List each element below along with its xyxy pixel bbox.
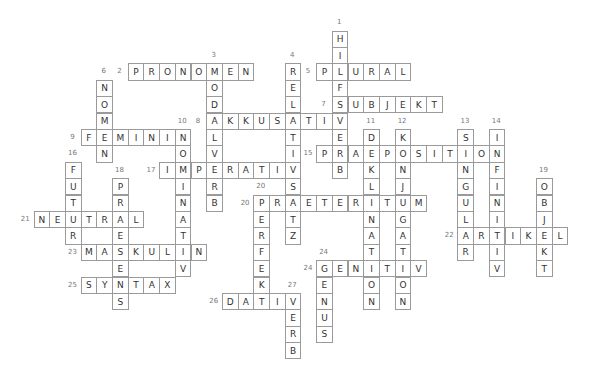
crossword-cell[interactable]: E: [285, 80, 302, 97]
crossword-cell[interactable]: K: [520, 227, 537, 244]
crossword-cell[interactable]: I: [489, 244, 506, 261]
crossword-cell[interactable]: V: [489, 260, 506, 277]
crossword-cell[interactable]: R: [112, 195, 129, 212]
crossword-cell[interactable]: X: [159, 277, 176, 294]
crossword-cell[interactable]: T: [316, 195, 333, 212]
crossword-cell[interactable]: I: [505, 227, 522, 244]
crossword-cell[interactable]: J: [536, 211, 553, 228]
crossword-cell[interactable]: N: [34, 211, 51, 228]
crossword-cell[interactable]: G: [316, 260, 333, 277]
crossword-cell[interactable]: N: [238, 63, 255, 80]
crossword-cell[interactable]: O: [191, 63, 208, 80]
crossword-cell[interactable]: I: [159, 162, 176, 179]
crossword-cell[interactable]: V: [285, 162, 302, 179]
crossword-cell[interactable]: K: [536, 244, 553, 261]
crossword-cell[interactable]: E: [300, 195, 317, 212]
crossword-cell[interactable]: P: [191, 162, 208, 179]
crossword-cell[interactable]: N: [112, 277, 129, 294]
crossword-cell[interactable]: U: [395, 195, 412, 212]
crossword-cell[interactable]: A: [457, 227, 474, 244]
crossword-cell[interactable]: T: [81, 211, 98, 228]
crossword-cell[interactable]: O: [363, 277, 380, 294]
crossword-cell[interactable]: S: [332, 96, 349, 113]
crossword-cell[interactable]: S: [112, 244, 129, 261]
crossword-cell[interactable]: J: [379, 96, 396, 113]
crossword-cell[interactable]: G: [395, 211, 412, 228]
crossword-cell[interactable]: T: [426, 96, 443, 113]
crossword-cell[interactable]: N: [395, 293, 412, 310]
crossword-cell[interactable]: N: [316, 293, 333, 310]
crossword-cell[interactable]: A: [143, 277, 160, 294]
crossword-cell[interactable]: T: [253, 162, 270, 179]
crossword-cell[interactable]: B: [332, 162, 349, 179]
crossword-cell[interactable]: E: [49, 211, 66, 228]
crossword-cell[interactable]: N: [363, 211, 380, 228]
crossword-cell[interactable]: V: [410, 260, 427, 277]
crossword-cell[interactable]: M: [81, 244, 98, 261]
crossword-cell[interactable]: B: [206, 195, 223, 212]
crossword-cell[interactable]: L: [159, 244, 176, 261]
crossword-cell[interactable]: O: [395, 145, 412, 162]
crossword-cell[interactable]: U: [316, 309, 333, 326]
crossword-cell[interactable]: U: [65, 178, 82, 195]
crossword-cell[interactable]: P: [112, 178, 129, 195]
crossword-cell[interactable]: A: [379, 63, 396, 80]
crossword-cell[interactable]: R: [253, 227, 270, 244]
crossword-cell[interactable]: M: [175, 162, 192, 179]
crossword-cell[interactable]: S: [457, 129, 474, 146]
crossword-cell[interactable]: R: [285, 326, 302, 343]
crossword-cell[interactable]: T: [536, 260, 553, 277]
crossword-cell[interactable]: O: [175, 145, 192, 162]
crossword-cell[interactable]: I: [426, 145, 443, 162]
crossword-cell[interactable]: R: [143, 63, 160, 80]
crossword-cell[interactable]: R: [222, 162, 239, 179]
crossword-cell[interactable]: O: [536, 178, 553, 195]
crossword-cell[interactable]: E: [363, 145, 380, 162]
crossword-cell[interactable]: D: [363, 129, 380, 146]
crossword-cell[interactable]: I: [332, 47, 349, 64]
crossword-cell[interactable]: T: [379, 195, 396, 212]
crossword-cell[interactable]: G: [457, 178, 474, 195]
crossword-cell[interactable]: S: [285, 178, 302, 195]
crossword-cell[interactable]: E: [206, 162, 223, 179]
crossword-cell[interactable]: L: [206, 129, 223, 146]
crossword-cell[interactable]: N: [489, 195, 506, 212]
crossword-cell[interactable]: N: [489, 145, 506, 162]
crossword-cell[interactable]: U: [253, 113, 270, 130]
crossword-cell[interactable]: I: [457, 145, 474, 162]
crossword-cell[interactable]: S: [112, 293, 129, 310]
crossword-cell[interactable]: M: [112, 129, 129, 146]
crossword-cell[interactable]: A: [175, 211, 192, 228]
crossword-cell[interactable]: Y: [96, 277, 113, 294]
crossword-cell[interactable]: V: [332, 113, 349, 130]
crossword-cell[interactable]: I: [159, 129, 176, 146]
crossword-cell[interactable]: F: [81, 129, 98, 146]
crossword-cell[interactable]: R: [457, 244, 474, 261]
crossword-cell[interactable]: F: [489, 162, 506, 179]
crossword-cell[interactable]: U: [143, 244, 160, 261]
crossword-cell[interactable]: V: [206, 145, 223, 162]
crossword-cell[interactable]: R: [332, 145, 349, 162]
crossword-cell[interactable]: N: [191, 244, 208, 261]
crossword-cell[interactable]: N: [363, 293, 380, 310]
crossword-cell[interactable]: E: [536, 227, 553, 244]
crossword-cell[interactable]: E: [332, 260, 349, 277]
crossword-cell[interactable]: T: [363, 244, 380, 261]
crossword-cell[interactable]: T: [65, 195, 82, 212]
crossword-cell[interactable]: N: [175, 129, 192, 146]
crossword-cell[interactable]: R: [285, 63, 302, 80]
crossword-cell[interactable]: K: [395, 129, 412, 146]
crossword-cell[interactable]: T: [285, 129, 302, 146]
crossword-cell[interactable]: L: [395, 63, 412, 80]
crossword-cell[interactable]: E: [112, 227, 129, 244]
crossword-cell[interactable]: A: [206, 113, 223, 130]
crossword-cell[interactable]: E: [285, 309, 302, 326]
crossword-cell[interactable]: L: [457, 211, 474, 228]
crossword-cell[interactable]: D: [222, 293, 239, 310]
crossword-cell[interactable]: U: [348, 63, 365, 80]
crossword-cell[interactable]: K: [222, 113, 239, 130]
crossword-cell[interactable]: N: [395, 162, 412, 179]
crossword-cell[interactable]: R: [96, 211, 113, 228]
crossword-cell[interactable]: F: [332, 80, 349, 97]
crossword-cell[interactable]: T: [395, 244, 412, 261]
